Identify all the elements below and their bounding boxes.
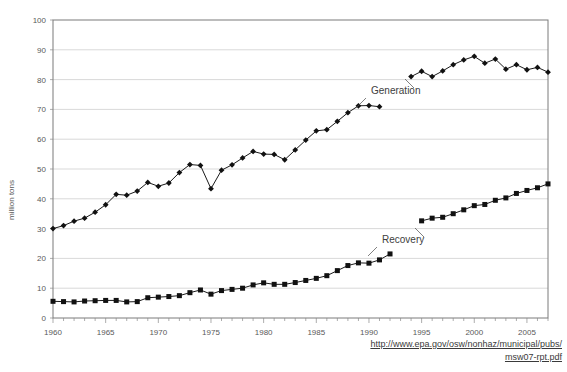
- data-point-marker: [187, 290, 192, 295]
- y-tick-label: 40: [37, 195, 46, 204]
- data-point-marker: [493, 198, 498, 203]
- x-tick-label: 1975: [202, 328, 220, 337]
- data-point-marker: [429, 74, 435, 80]
- data-point-marker: [82, 299, 87, 304]
- data-point-marker: [124, 299, 129, 304]
- source-url-line2[interactable]: msw07-rpt.pdf: [318, 351, 562, 364]
- data-point-marker: [51, 299, 56, 304]
- data-point-marker: [535, 64, 541, 70]
- y-tick-label: 50: [37, 165, 46, 174]
- data-point-marker: [514, 62, 520, 68]
- data-point-marker: [472, 203, 477, 208]
- data-point-marker: [229, 162, 235, 168]
- data-point-marker: [324, 273, 329, 278]
- data-point-marker: [388, 251, 393, 256]
- data-point-marker: [72, 299, 77, 304]
- data-point-marker: [82, 215, 88, 221]
- data-point-marker: [356, 260, 361, 265]
- y-tick-label: 30: [37, 225, 46, 234]
- data-point-marker: [61, 299, 66, 304]
- x-tick-label: 1960: [44, 328, 62, 337]
- data-point-marker: [450, 62, 456, 68]
- x-tick-label: 1965: [97, 328, 115, 337]
- y-tick-label: 70: [37, 105, 46, 114]
- chart-container: 0102030405060708090100 19601965197019751…: [0, 0, 567, 372]
- data-point-marker: [482, 60, 488, 66]
- data-point-marker: [293, 280, 298, 285]
- data-point-marker: [377, 257, 382, 262]
- data-point-marker: [366, 103, 372, 109]
- data-point-marker: [198, 163, 204, 169]
- data-point-marker: [419, 218, 424, 223]
- data-point-marker: [545, 69, 551, 75]
- y-tick-label: 80: [37, 76, 46, 85]
- data-point-marker: [240, 155, 246, 161]
- y-tick-label: 90: [37, 46, 46, 55]
- data-point-marker: [208, 292, 213, 297]
- data-point-marker: [282, 282, 287, 287]
- data-point-marker: [524, 188, 529, 193]
- series-annotation-recovery: Recovery: [382, 234, 424, 245]
- data-point-marker: [261, 280, 266, 285]
- x-tick-label: 1990: [360, 328, 378, 337]
- x-tick-label: 1970: [149, 328, 167, 337]
- data-point-marker: [271, 151, 277, 157]
- data-point-marker: [219, 288, 224, 293]
- data-point-marker: [303, 278, 308, 283]
- data-point-marker: [314, 276, 319, 281]
- data-point-marker: [250, 149, 256, 155]
- data-point-marker: [177, 293, 182, 298]
- data-point-marker: [230, 287, 235, 292]
- y-tick-label: 20: [37, 254, 46, 263]
- x-tick-label: 1980: [255, 328, 273, 337]
- x-axis-ticks-group: 1960196519701975198019851990199520002005: [44, 318, 548, 337]
- data-point-marker: [503, 195, 508, 200]
- y-axis-title: million tons: [7, 180, 16, 220]
- data-point-marker: [124, 192, 130, 198]
- data-point-marker: [71, 218, 77, 224]
- data-point-marker: [103, 298, 108, 303]
- gridlines-group: [53, 50, 548, 288]
- data-point-marker: [114, 298, 119, 303]
- data-point-marker: [482, 202, 487, 207]
- data-point-marker: [208, 186, 214, 192]
- data-point-marker: [135, 299, 140, 304]
- data-point-marker: [440, 68, 446, 74]
- msw-generation-recovery-chart: 0102030405060708090100 19601965197019751…: [0, 0, 567, 372]
- data-point-marker: [61, 223, 67, 229]
- data-point-marker: [366, 261, 371, 266]
- data-point-marker: [145, 295, 150, 300]
- y-tick-label: 60: [37, 135, 46, 144]
- data-point-marker: [546, 181, 551, 186]
- data-point-marker: [535, 185, 540, 190]
- data-point-marker: [155, 183, 161, 189]
- data-point-marker: [261, 151, 267, 157]
- data-point-marker: [419, 68, 425, 74]
- x-tick-label: 1995: [413, 328, 431, 337]
- data-point-marker: [408, 74, 414, 80]
- data-point-marker: [93, 298, 98, 303]
- data-point-marker: [50, 226, 56, 232]
- source-url-link[interactable]: http://www.epa.gov/osw/nonhaz/municipal/…: [318, 338, 562, 364]
- data-point-marker: [335, 268, 340, 273]
- data-point-marker: [461, 207, 466, 212]
- x-tick-label: 2005: [518, 328, 536, 337]
- x-tick-label: 2000: [465, 328, 483, 337]
- data-point-marker: [440, 215, 445, 220]
- data-point-marker: [219, 167, 225, 173]
- data-point-marker: [251, 282, 256, 287]
- series-recovery: [51, 181, 551, 304]
- data-point-marker: [156, 295, 161, 300]
- data-point-marker: [524, 67, 530, 73]
- data-point-marker: [345, 263, 350, 268]
- y-axis-ticks-group: 0102030405060708090100: [33, 16, 53, 323]
- data-point-marker: [471, 53, 477, 59]
- source-url-line1[interactable]: http://www.epa.gov/osw/nonhaz/municipal/…: [318, 338, 562, 351]
- data-point-marker: [166, 294, 171, 299]
- x-tick-label: 1985: [307, 328, 325, 337]
- data-point-marker: [451, 211, 456, 216]
- data-point-marker: [514, 191, 519, 196]
- data-point-marker: [240, 286, 245, 291]
- data-series-group: [50, 53, 551, 304]
- data-point-marker: [461, 57, 467, 63]
